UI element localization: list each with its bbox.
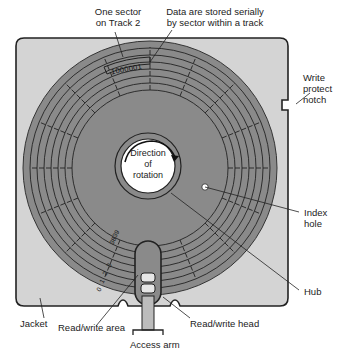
label-access-arm: Access arm [130,339,180,350]
label-hub: Hub [304,286,321,297]
access-arm [142,296,154,330]
label-write-protect-notch: Write protect notch [303,72,332,105]
label-read-write-area: Read/write area [58,322,125,333]
label-index-hole: Index hole [304,207,327,229]
label-one-sector: One sector on Track 2 [88,6,148,28]
label-jacket: Jacket [20,318,47,329]
label-rotation: Direction of rotation [118,148,178,181]
access-arm-base [133,330,163,335]
label-read-write-head: Read/write head [190,318,259,329]
label-data-stored: Data are stored serially by sector withi… [150,6,280,28]
